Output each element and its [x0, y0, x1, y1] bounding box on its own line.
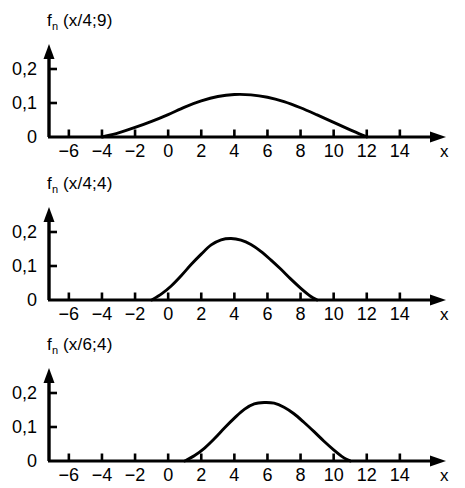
y-tick-label: 0,2: [0, 223, 37, 241]
y-tick-label: 0,1: [0, 257, 37, 275]
x-tick-label: 14: [380, 466, 420, 484]
y-tick-label: 0: [0, 128, 37, 146]
x-axis-arrowhead: [430, 456, 446, 467]
y-axis-arrowhead: [44, 207, 55, 222]
x-axis-name: x: [440, 467, 449, 484]
plot-area-2: [0, 163, 465, 326]
x-axis-name: x: [440, 306, 449, 323]
x-tick-label: 14: [380, 142, 420, 160]
y-axis-arrowhead: [44, 368, 55, 383]
x-axis-arrowhead: [430, 295, 446, 306]
plot-area-1: [0, 0, 465, 163]
x-tick-label: 14: [380, 305, 420, 323]
y-tick-label: 0: [0, 291, 37, 309]
chart-panel-1: fn (x/4;9) −6−4−20246810121400,10,2x: [0, 0, 465, 163]
chart-panel-2: fn (x/4;4) −6−4−20246810121400,10,2x: [0, 163, 465, 326]
x-axis-arrowhead: [430, 132, 446, 143]
y-axis-arrowhead: [44, 44, 55, 59]
figure-three-density-plots: fn (x/4;9) −6−4−20246810121400,10,2x fn …: [0, 0, 465, 488]
x-axis-name: x: [440, 143, 449, 160]
y-tick-label: 0,1: [0, 418, 37, 436]
chart-panel-3: fn (x/6;4) −6−4−20246810121400,10,2x: [0, 324, 465, 487]
density-curve: [152, 238, 317, 300]
plot-area-3: [0, 324, 465, 487]
y-tick-label: 0,1: [0, 94, 37, 112]
y-tick-label: 0,2: [0, 384, 37, 402]
density-curve: [185, 402, 350, 461]
y-tick-label: 0,2: [0, 60, 37, 78]
y-tick-label: 0: [0, 452, 37, 470]
